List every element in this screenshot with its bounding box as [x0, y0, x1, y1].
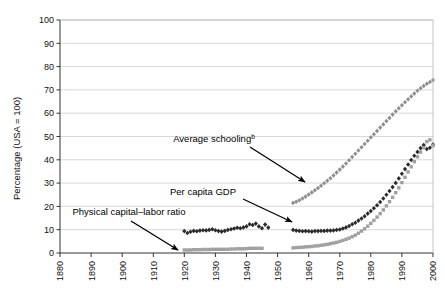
y-tick-label-0: 0 [49, 248, 54, 258]
chart-figure: 0102030405060708090100188018901900191019… [0, 0, 445, 304]
data-point [307, 245, 310, 248]
data-point [242, 247, 245, 250]
y-tick-label-50: 50 [44, 132, 54, 142]
data-point [391, 196, 394, 199]
data-point [245, 247, 248, 250]
data-point [192, 248, 195, 251]
data-point [310, 245, 313, 248]
data-point [366, 225, 369, 228]
data-point [214, 248, 217, 251]
x-tick-label-1950: 1950 [273, 261, 283, 281]
annotation-label-per-capita-gdp: Per capita GDP [170, 186, 236, 197]
y-axis-title: Percentage (USA = 100) [11, 97, 22, 200]
annotation-label-average-schooling: Average schoolingb [173, 133, 255, 144]
y-tick-label-20: 20 [44, 202, 54, 212]
data-point [198, 248, 201, 251]
x-tick-label-1960: 1960 [304, 261, 314, 281]
data-point [410, 165, 413, 168]
data-point [363, 227, 366, 230]
data-point [332, 241, 335, 244]
y-axis-title-text: Percentage (USA = 100) [11, 97, 22, 200]
data-point [397, 186, 400, 189]
data-point [428, 138, 431, 141]
data-point [313, 244, 316, 247]
x-tick-label-1930: 1930 [211, 261, 221, 281]
data-point [375, 215, 378, 218]
data-point [195, 248, 198, 251]
data-point [257, 247, 260, 250]
data-point [232, 247, 235, 250]
data-point [388, 200, 391, 203]
data-point [323, 243, 326, 246]
data-point [344, 238, 347, 241]
x-tick-label-1900: 1900 [118, 261, 128, 281]
data-point [239, 247, 242, 250]
data-point [379, 212, 382, 215]
x-tick-label-2000: 2000 [428, 261, 438, 281]
data-point [335, 241, 338, 244]
data-point [422, 146, 425, 149]
data-point [183, 248, 186, 251]
x-tick-label-1910: 1910 [149, 261, 159, 281]
data-point [372, 219, 375, 222]
y-tick-label-90: 90 [44, 39, 54, 49]
data-point [208, 248, 211, 251]
data-point [400, 181, 403, 184]
data-point [211, 248, 214, 251]
data-point [425, 140, 428, 143]
y-tick-label-30: 30 [44, 178, 54, 188]
x-tick-label-1990: 1990 [397, 261, 407, 281]
data-point [220, 248, 223, 251]
data-point [189, 248, 192, 251]
data-point [354, 233, 357, 236]
data-point [248, 247, 251, 250]
data-point [357, 232, 360, 235]
data-point [382, 208, 385, 211]
data-point [394, 191, 397, 194]
data-point [413, 160, 416, 163]
data-point [236, 247, 239, 250]
data-point [229, 247, 232, 250]
data-point [385, 204, 388, 207]
data-point [298, 246, 301, 249]
data-point [291, 246, 294, 249]
data-point [369, 222, 372, 225]
data-point [254, 247, 257, 250]
y-tick-label-70: 70 [44, 85, 54, 95]
data-point [351, 235, 354, 238]
x-tick-label-1980: 1980 [366, 261, 376, 281]
data-point [416, 155, 419, 158]
data-point [338, 240, 341, 243]
data-point [301, 246, 304, 249]
y-tick-label-40: 40 [44, 155, 54, 165]
x-tick-label-1920: 1920 [180, 261, 190, 281]
data-point [186, 248, 189, 251]
data-point [260, 247, 263, 250]
x-tick-label-1940: 1940 [242, 261, 252, 281]
y-tick-label-60: 60 [44, 108, 54, 118]
annotation-label-physical-capital-labor-ratio: Physical capital–labor ratio [72, 206, 185, 217]
data-point [223, 248, 226, 251]
data-point [204, 248, 207, 251]
y-tick-label-80: 80 [44, 62, 54, 72]
x-tick-label-1970: 1970 [335, 261, 345, 281]
data-point [251, 247, 254, 250]
data-point [304, 245, 307, 248]
data-point [406, 170, 409, 173]
data-point [295, 246, 298, 249]
x-tick-label-1880: 1880 [55, 261, 65, 281]
y-tick-label-10: 10 [44, 225, 54, 235]
data-point [326, 243, 329, 246]
data-point [403, 176, 406, 179]
data-point [217, 248, 220, 251]
data-point [419, 150, 422, 153]
data-point [360, 229, 363, 232]
chart-canvas: 0102030405060708090100188018901900191019… [0, 0, 445, 304]
data-point [329, 242, 332, 245]
data-point [319, 244, 322, 247]
data-point [341, 239, 344, 242]
y-tick-label-100: 100 [39, 15, 54, 25]
data-point [316, 244, 319, 247]
data-point [347, 236, 350, 239]
data-point [201, 248, 204, 251]
